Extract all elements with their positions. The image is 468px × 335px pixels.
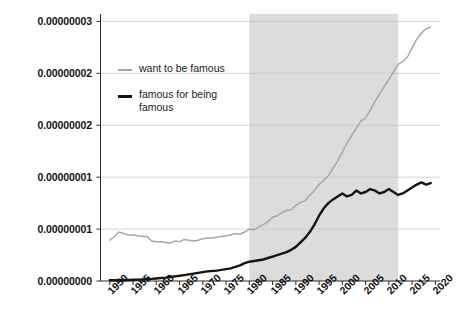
y-axis-tick-label: 0.00000001 — [8, 171, 92, 183]
y-axis-tick-label: 0.00000001 — [8, 223, 92, 235]
y-axis-tick-label: 0.00000000 — [8, 275, 92, 287]
legend-item-famous-for-being-famous: famous for being famous — [118, 88, 225, 114]
y-axis-tick-label: 0.00000002 — [8, 67, 92, 79]
legend-swatch-light-icon — [118, 69, 132, 71]
legend-item-want-to-be-famous: want to be famous — [118, 62, 225, 75]
legend-swatch-dark-icon — [118, 95, 132, 98]
legend-label: famous for being famous — [139, 88, 225, 114]
chart-legend: want to be famous famous for being famou… — [118, 62, 225, 127]
shaded-band-group — [249, 14, 398, 281]
chart-container: 0.000000000.000000010.000000010.00000002… — [0, 0, 468, 335]
highlight-band — [249, 14, 398, 281]
legend-label: want to be famous — [139, 62, 225, 75]
y-axis-tick-label: 0.00000003 — [8, 15, 92, 27]
y-axis-tick-label: 0.00000002 — [8, 119, 92, 131]
